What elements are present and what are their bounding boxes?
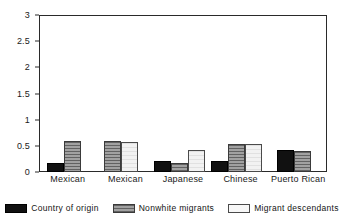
bar-chart: 00.511.522.53 MexicanMexicanJapaneseChin… — [0, 0, 344, 223]
legend-label: Nonwhite migrants — [139, 203, 215, 213]
y-tick-label: 2.5 — [17, 36, 30, 46]
legend-item: Country of origin — [5, 203, 98, 213]
y-axis: 00.511.522.53 — [0, 0, 36, 190]
bar-country-of-origin — [277, 150, 294, 173]
x-tick-label: Chinese — [223, 174, 257, 184]
legend-item: Migrant descendants — [228, 203, 339, 213]
legend-swatch-icon — [5, 204, 27, 213]
bars-layer — [39, 15, 327, 172]
legend-label: Country of origin — [31, 203, 98, 213]
legend-swatch-icon — [228, 204, 250, 213]
x-tick-label: Puerto Rican — [271, 174, 325, 184]
y-tick-label: 0 — [25, 167, 30, 177]
y-tick-label: 1 — [25, 115, 30, 125]
y-tick-label: 3 — [25, 10, 30, 20]
bar-nonwhite-migrants — [294, 151, 311, 172]
legend-swatch-icon — [113, 204, 135, 213]
bar-group — [39, 15, 327, 172]
y-tick-label: 1.5 — [17, 89, 30, 99]
legend-item: Nonwhite migrants — [113, 203, 215, 213]
x-tick-label: Mexican — [108, 174, 143, 184]
x-tick-label: Mexican — [50, 174, 85, 184]
y-tick-label: 2 — [25, 62, 30, 72]
x-tick-label: Japanese — [163, 174, 204, 184]
chart-legend: Country of originNonwhite migrantsMigran… — [0, 200, 344, 216]
y-tick-label: 0.5 — [17, 141, 30, 151]
legend-label: Migrant descendants — [254, 203, 339, 213]
x-axis: MexicanMexicanJapaneseChinesePuerto Rica… — [39, 174, 327, 190]
